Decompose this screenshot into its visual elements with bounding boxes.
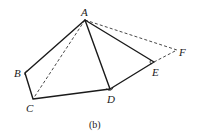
segment-AD <box>85 20 110 89</box>
label-F: F <box>178 46 186 58</box>
label-C: C <box>26 102 34 114</box>
segment-EF <box>154 50 177 62</box>
figure-caption: (b) <box>89 119 101 131</box>
label-E: E <box>151 66 159 78</box>
label-A: A <box>80 6 88 18</box>
geometry-figure: A B C D E F (b) <box>0 0 200 137</box>
label-B: B <box>14 67 21 79</box>
segment-AF <box>85 20 177 50</box>
label-D: D <box>106 93 115 105</box>
